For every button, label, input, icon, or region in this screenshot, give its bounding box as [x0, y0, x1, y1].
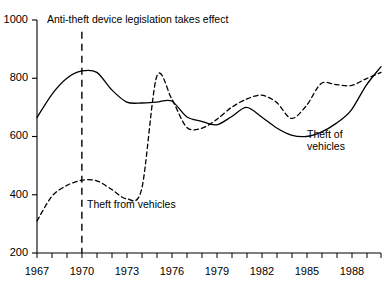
x-tick-label-1979: 1979 [200, 265, 234, 277]
y-tick-label-600: 600 [0, 129, 28, 141]
chart-container: 1000 800 600 400 200 1967 1970 1973 1976… [0, 0, 389, 290]
series-label-theft-of-vehicles: Theft of vehicles [307, 128, 345, 152]
series-label-theft-from-vehicles: Theft from vehicles [87, 198, 176, 210]
x-tick-label-1985: 1985 [290, 265, 324, 277]
y-axis-ticks [32, 20, 37, 253]
y-tick-label-400: 400 [0, 188, 28, 200]
series-label-theft-of-line1: Theft of [307, 128, 343, 140]
series-line-theft-of-vehicles [37, 67, 381, 137]
series-label-theft-of-line2: vehicles [307, 140, 345, 152]
x-tick-label-1970: 1970 [65, 265, 99, 277]
legislation-annotation-text: Anti-theft device legislation takes effe… [47, 13, 228, 25]
x-tick-label-1973: 1973 [110, 265, 144, 277]
y-tick-label-800: 800 [0, 71, 28, 83]
x-axis-ticks [37, 253, 381, 258]
x-tick-label-1976: 1976 [155, 265, 189, 277]
x-tick-label-1982: 1982 [245, 265, 279, 277]
x-tick-label-1988: 1988 [335, 265, 369, 277]
x-tick-label-1967: 1967 [20, 265, 54, 277]
y-tick-label-200: 200 [0, 246, 28, 258]
y-tick-label-1000: 1000 [0, 13, 28, 25]
